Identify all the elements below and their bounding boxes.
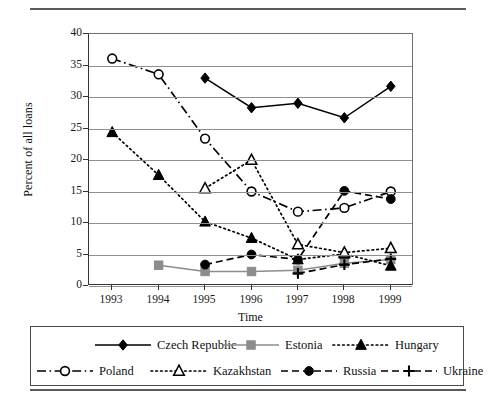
legend-item-hungary: Hungary bbox=[331, 332, 439, 358]
y-axis-title: Percent of all loans bbox=[21, 60, 36, 240]
x-axis-title: Time bbox=[88, 310, 413, 325]
bottom-rule bbox=[30, 389, 466, 391]
y-tick-label: 0 bbox=[56, 279, 82, 291]
x-tick-mark bbox=[297, 285, 298, 290]
gridline bbox=[89, 192, 412, 193]
legend-item-czech-republic: Czech Republic bbox=[93, 332, 237, 358]
y-tick-label: 5 bbox=[56, 248, 82, 260]
x-tick-label: 1999 bbox=[368, 293, 412, 305]
gridline bbox=[89, 160, 412, 161]
x-tick-label: 1994 bbox=[136, 293, 180, 305]
y-tick-label: 15 bbox=[56, 185, 82, 197]
series-hungary bbox=[107, 126, 396, 270]
gridline bbox=[89, 66, 412, 67]
x-tick-label: 1996 bbox=[229, 293, 273, 305]
x-tick-mark bbox=[251, 285, 252, 290]
legend-label-kazakhstan: Kazakhstan bbox=[213, 364, 271, 379]
legend-key-estonia-icon bbox=[221, 335, 281, 355]
legend-key-czech-republic-icon bbox=[93, 335, 153, 355]
plot-wrapper: Percent of all loans 0510152025303540 19… bbox=[0, 14, 496, 314]
figure-page: Percent of all loans 0510152025303540 19… bbox=[0, 0, 496, 406]
legend-label-russia: Russia bbox=[343, 364, 376, 379]
y-axis-tick-labels: 0510152025303540 bbox=[50, 14, 82, 314]
y-tick-label: 25 bbox=[56, 122, 82, 134]
legend-row-2: Poland Kazakhstan Russia Ukraine bbox=[31, 358, 463, 384]
x-tick-mark bbox=[111, 285, 112, 290]
y-tick-label: 40 bbox=[56, 27, 82, 39]
legend-item-ukraine: Ukraine bbox=[379, 358, 483, 384]
legend-item-kazakhstan: Kazakhstan bbox=[149, 358, 271, 384]
legend-item-poland: Poland bbox=[35, 358, 134, 384]
legend-label-poland: Poland bbox=[99, 364, 134, 379]
gridline bbox=[89, 255, 412, 256]
series-kazakhstan bbox=[200, 154, 396, 257]
y-tick-label: 30 bbox=[56, 90, 82, 102]
legend-key-poland-icon bbox=[35, 361, 95, 381]
x-tick-label: 1997 bbox=[275, 293, 319, 305]
legend-key-russia-icon bbox=[279, 361, 339, 381]
legend-row-1: Czech Republic Estonia Hungary bbox=[31, 332, 463, 358]
gridline bbox=[89, 97, 412, 98]
legend-label-estonia: Estonia bbox=[285, 338, 323, 353]
y-tick-label: 35 bbox=[56, 59, 82, 71]
x-tick-label: 1995 bbox=[182, 293, 226, 305]
top-rule bbox=[30, 8, 466, 10]
gridline bbox=[89, 223, 412, 224]
legend-key-hungary-icon bbox=[331, 335, 391, 355]
x-tick-label: 1998 bbox=[321, 293, 365, 305]
chart-figure: Percent of all loans 0510152025303540 19… bbox=[0, 14, 496, 386]
x-tick-mark bbox=[158, 285, 159, 290]
legend-label-ukraine: Ukraine bbox=[443, 364, 483, 379]
x-tick-mark bbox=[390, 285, 391, 290]
legend-key-ukraine-icon bbox=[379, 361, 439, 381]
x-tick-mark bbox=[343, 285, 344, 290]
series-russia bbox=[201, 186, 396, 269]
y-tick-label: 20 bbox=[56, 153, 82, 165]
gridline bbox=[89, 129, 412, 130]
legend-item-estonia: Estonia bbox=[221, 332, 323, 358]
plot-area bbox=[88, 33, 413, 285]
y-tick-mark bbox=[83, 285, 88, 286]
legend-label-hungary: Hungary bbox=[395, 338, 439, 353]
y-tick-label: 10 bbox=[56, 216, 82, 228]
legend-key-kazakhstan-icon bbox=[149, 361, 209, 381]
x-tick-label: 1993 bbox=[89, 293, 133, 305]
chart-legend: Czech Republic Estonia Hungary Poland bbox=[30, 326, 464, 386]
legend-item-russia: Russia bbox=[279, 358, 376, 384]
x-tick-mark bbox=[204, 285, 205, 290]
series-estonia bbox=[154, 255, 395, 275]
